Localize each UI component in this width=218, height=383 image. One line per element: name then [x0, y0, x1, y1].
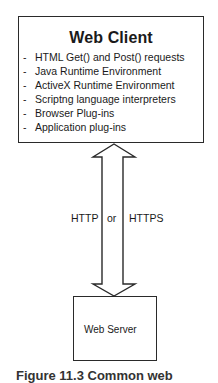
- https-label: HTTPS: [129, 212, 163, 224]
- http-label: HTTP: [71, 212, 98, 224]
- figure-caption: Figure 11.3 Common web: [16, 368, 173, 383]
- web-server-label: Web Server: [84, 324, 137, 335]
- or-label: or: [107, 212, 116, 224]
- web-server-box: Web Server: [73, 296, 157, 361]
